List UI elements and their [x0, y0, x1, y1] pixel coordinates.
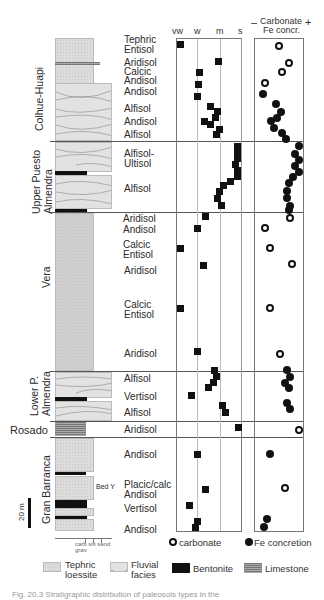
grain-size-ticks: carb silt sand grav [75, 541, 120, 553]
legend-bentonite-swatch [172, 563, 190, 573]
legend-carbonate-label: carbonate [179, 538, 221, 548]
bentonite-layer [55, 500, 87, 508]
paleosol-label: Vertisol [124, 392, 157, 402]
figure-caption: Fig. 20.3 Stratigraphic distribution of … [12, 590, 219, 600]
fluvial-layer [55, 83, 112, 141]
paleosol-label: Entisol [124, 45, 154, 55]
paleosol-label: Entisol [123, 250, 153, 260]
carbonate-plus: + [305, 16, 311, 28]
paleosol-label: Aridisol [124, 425, 157, 435]
legend-carbonate-icon [169, 538, 177, 546]
scale-bar [28, 498, 31, 528]
tephric-layer [55, 519, 94, 531]
paleosol-label: Andisol [124, 117, 157, 127]
paleosol-label: Andisol [124, 450, 157, 460]
legend-limestone-swatch [244, 563, 262, 573]
fluvial-layer [55, 401, 112, 421]
paleosol-label: Alfisol [124, 374, 151, 384]
gridline-s [241, 39, 242, 431]
tephric-layer [55, 508, 94, 516]
paleosol-label: Aridisol [124, 349, 157, 359]
paleosol-label: Entisol [124, 310, 154, 320]
drainage-tick-s: s [238, 26, 243, 36]
drainage-tick-vw: vw [172, 26, 183, 36]
paleosol-label: Alfisol [124, 104, 151, 114]
paleosol-label: Alfisol [124, 184, 151, 194]
fluvial-layer [55, 175, 112, 209]
tephric-layer [55, 38, 94, 84]
drainage-tick-m: m [216, 26, 224, 36]
paleosol-label: Aridisol [123, 214, 156, 224]
limestone-layer [55, 62, 100, 65]
legend-fe-concretion-label: Fe concretion [254, 538, 312, 548]
paleosol-label: Alfisol [124, 408, 151, 418]
paleosol-label: Andisol [123, 225, 156, 235]
paleosol-label: Andisol [124, 525, 157, 535]
cross-bedding-lines [56, 84, 112, 141]
carbonate-title-line2: Fe concr. [263, 25, 300, 35]
tephric-layer [55, 476, 94, 500]
paleosol-label: Alfisol [124, 130, 151, 140]
fluvial-layer [55, 142, 112, 172]
tephric-layer [55, 438, 94, 472]
limestone-layer [55, 422, 86, 436]
tephric-layer [55, 213, 94, 371]
carbonate-minus: – [251, 16, 257, 28]
paleosol-label: Andisol [124, 490, 157, 500]
drainage-tick-w: w [194, 26, 201, 36]
paleosol-label: Vertisol [124, 504, 157, 514]
legend-tephric-label: Tephric loessite [65, 560, 97, 580]
paleosol-label: Aridisol [124, 266, 157, 276]
legend-tephric-line2: loessite [65, 570, 97, 580]
scale-bar-label: 20 m [17, 503, 26, 521]
bentonite-layer [55, 472, 86, 475]
legend-tephric-swatch [43, 562, 61, 572]
paleosol-label: Andisol [124, 76, 157, 86]
paleosol-label: Ultisol [124, 159, 151, 169]
legend-fluvial-swatch [110, 562, 128, 572]
legend-limestone-label: Limestone [265, 564, 309, 574]
legend-fluvial-line2: facies [131, 570, 158, 580]
legend-fluvial-label: Fluvial facies [131, 560, 158, 580]
fluvial-layer [55, 372, 112, 398]
legend-fe-concretion-icon [245, 538, 253, 546]
bed-y-label: Bed Y [96, 482, 115, 492]
legend-bentonite-label: Bentonite [193, 564, 233, 574]
drainage-plot [176, 38, 242, 532]
paleosol-label: Andisol [124, 87, 157, 97]
